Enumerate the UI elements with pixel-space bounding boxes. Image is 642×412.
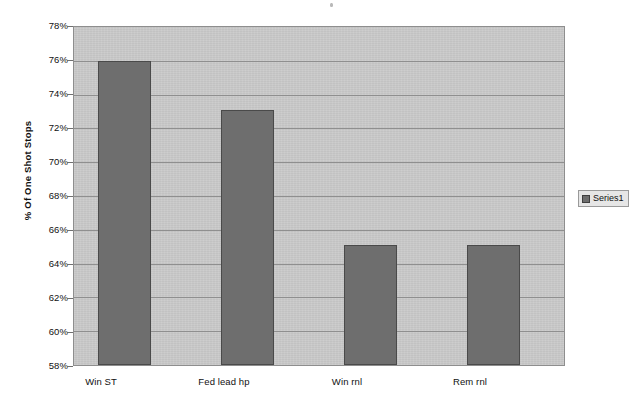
plot-area [73, 26, 565, 366]
scan-artifact-speck [330, 3, 333, 7]
legend: Series1 [578, 190, 629, 207]
y-axis-tick-label: 64% [8, 259, 68, 269]
x-axis-label-fed-lead-hp: Fed lead hp [183, 376, 265, 387]
legend-label-series1: Series1 [593, 194, 624, 203]
y-axis-tick-label: 66% [8, 225, 68, 235]
y-axis-tick-label: 68% [8, 191, 68, 201]
x-axis-label-rem-rnl: Rem rnl [429, 376, 511, 387]
bar-chart: 78% 76% 74% 72% 70% 68% 66% 64% 62% 60% … [0, 0, 642, 412]
y-axis-tick-mark [67, 366, 73, 367]
y-axis-tick-label: 60% [8, 327, 68, 337]
y-axis-tick-label: 62% [8, 293, 68, 303]
legend-swatch-series1 [582, 195, 590, 203]
x-axis-label-win-rnl: Win rnl [306, 376, 388, 387]
bar-fed-lead-hp [221, 110, 274, 365]
y-axis-tick-label: 76% [8, 55, 68, 65]
y-axis-title: % Of One Shot Stops [22, 76, 33, 266]
y-axis-tick-label: 78% [8, 21, 68, 31]
bar-win-rnl [344, 245, 397, 365]
y-axis-tick-layer: 78% 76% 74% 72% 70% 68% 66% 64% 62% 60% … [0, 0, 68, 412]
bar-rem-rnl [467, 245, 520, 365]
y-axis-tick-label: 74% [8, 89, 68, 99]
bar-win-st [98, 61, 151, 365]
y-axis-tick-label: 72% [8, 123, 68, 133]
x-axis-label-win-st: Win ST [60, 376, 142, 387]
y-axis-tick-label: 58% [8, 361, 68, 371]
y-axis-tick-label: 70% [8, 157, 68, 167]
